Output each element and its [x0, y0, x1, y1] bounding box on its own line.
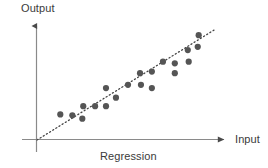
chart-caption: Regression — [100, 150, 157, 162]
scatter-point — [196, 32, 202, 38]
y-axis-label: Output — [21, 2, 55, 14]
scatter-point — [185, 47, 191, 53]
scatter-point — [149, 68, 155, 74]
scatter-point — [172, 60, 178, 66]
plot-canvas — [0, 0, 268, 168]
scatter-point — [80, 103, 86, 109]
scatter-point — [103, 103, 109, 109]
scatter-point — [92, 103, 98, 109]
scatter-point — [69, 112, 75, 118]
scatter-point — [103, 85, 109, 91]
scatter-point — [186, 59, 192, 65]
scatter-point — [160, 59, 166, 65]
scatter-point — [79, 116, 85, 122]
regression-scatter-figure: Output Input Regression — [0, 0, 268, 168]
scatter-point — [137, 70, 143, 76]
scatter-point — [113, 95, 119, 101]
scatter-point — [149, 85, 155, 91]
scatter-point — [125, 82, 131, 88]
x-axis-label: Input — [235, 133, 260, 145]
scatter-point-group — [57, 32, 202, 122]
scatter-point — [57, 111, 63, 117]
scatter-point — [172, 70, 178, 76]
scatter-point — [195, 44, 201, 50]
scatter-point — [138, 82, 144, 88]
